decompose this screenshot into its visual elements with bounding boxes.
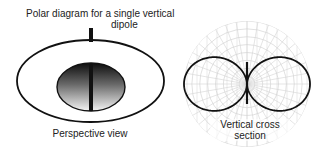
cross-section-caption: Vertical cross section <box>210 119 290 141</box>
cross-caption-line-1: Vertical cross <box>210 119 290 130</box>
cross-caption-line-2: section <box>210 130 290 141</box>
perspective-view <box>17 28 164 122</box>
diagram-title: Polar diagram for a single vertical dipo… <box>26 8 206 30</box>
title-line-2: dipole <box>26 19 206 30</box>
dipole-polar-diagram-figure: Polar diagram for a single vertical dipo… <box>0 0 326 151</box>
title-line-1: Polar diagram for a single vertical <box>26 8 174 19</box>
perspective-view-caption: Perspective view <box>40 128 140 139</box>
